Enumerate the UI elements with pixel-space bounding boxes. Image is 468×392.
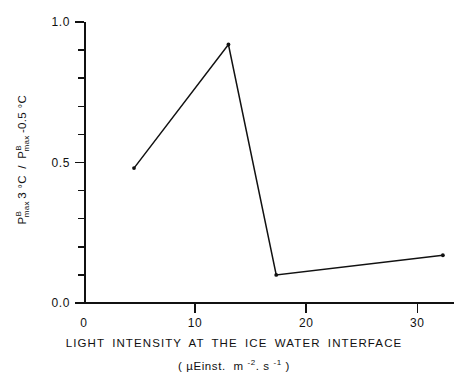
y-axis-line	[84, 22, 86, 304]
x-axis-tick-label: 20	[299, 316, 314, 330]
x-axis-tick-label: 30	[410, 316, 425, 330]
denominator-temperature: -0.5 °C	[16, 95, 28, 133]
x-axis-major-tick	[417, 304, 419, 313]
y-axis-tick-label: 1.0	[26, 15, 70, 29]
x-axis-major-tick	[305, 304, 307, 313]
y-axis-minor-tick	[78, 77, 84, 79]
y-axis-minor-tick	[78, 49, 84, 51]
y-axis-tick-label: 0.5	[26, 156, 70, 170]
y-axis-major-tick	[75, 302, 84, 304]
y-axis-minor-tick	[78, 190, 84, 192]
x-axis-tick-label: 10	[188, 316, 203, 330]
x-axis-line	[84, 302, 454, 304]
data-point	[274, 273, 278, 277]
y-axis-minor-tick	[78, 246, 84, 248]
data-point	[441, 253, 445, 257]
x-axis-title: LIGHT INTENSITY AT THE ICE WATER INTERFA…	[0, 337, 468, 349]
data-line	[134, 44, 443, 274]
numerator-temperature: 3 °C	[16, 175, 28, 199]
data-point	[132, 166, 136, 170]
x-axis-major-tick	[194, 304, 196, 313]
y-axis-numerator: PBmax3 °C	[17, 175, 29, 224]
y-axis-major-tick	[75, 162, 84, 164]
x-axis-units: ( µEinst. m -2. s -1 )	[0, 358, 468, 372]
subscript-max: max	[23, 136, 31, 152]
x-axis-units-text: ( µEinst. m -2. s -1 )	[178, 360, 290, 372]
pmax-symbol-numerator: PBmax	[17, 211, 29, 225]
y-axis-minor-tick	[78, 218, 84, 220]
y-axis-minor-tick	[78, 274, 84, 276]
p-symbol: P	[16, 217, 28, 225]
y-axis-tick-label: 0.0	[26, 296, 70, 310]
subscript-max: max	[23, 202, 31, 218]
x-axis-tick-label: 0	[80, 316, 87, 330]
data-series-plot	[0, 0, 468, 392]
y-axis-minor-tick	[78, 106, 84, 108]
data-point	[227, 43, 231, 47]
y-axis-minor-tick	[78, 134, 84, 136]
y-axis-denominator: PBmax-0.5 °C	[17, 95, 29, 159]
figure-chart: PBmax3 °C / PBmax-0.5 °C 0.00.51.0 01020…	[0, 0, 468, 392]
y-axis-major-tick	[75, 21, 84, 23]
